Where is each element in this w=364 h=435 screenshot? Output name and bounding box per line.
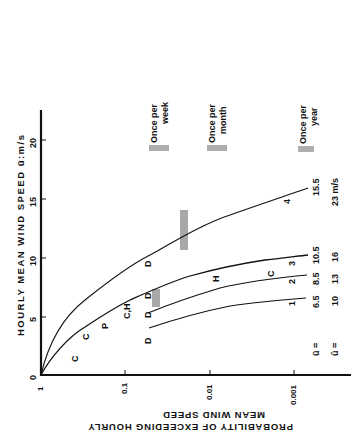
annotation-ch: C,H bbox=[122, 304, 132, 320]
u-gust-curve-4: 23 m/s bbox=[330, 178, 340, 206]
hatch-marker-year bbox=[299, 146, 313, 152]
hatch-marker-week bbox=[150, 145, 168, 151]
annotation-c-right: C bbox=[266, 271, 276, 278]
shaded-band-lower bbox=[152, 289, 160, 307]
u-gust-curve-2: 13 bbox=[330, 274, 340, 284]
annotation-c1: C bbox=[70, 356, 80, 363]
label-once-per-month-2: month bbox=[218, 107, 228, 135]
curve-2 bbox=[148, 275, 307, 313]
x-tick-1: 1 bbox=[36, 387, 45, 391]
y-tick-10: 10 bbox=[28, 256, 38, 266]
label-once-per-year-2: year bbox=[309, 107, 319, 126]
x-tick-0.1: 0.1 bbox=[120, 383, 129, 394]
x-axis-title-line1: PROBABILITY OF EXCEEDING HOURLY bbox=[88, 422, 293, 433]
annotation-h: H bbox=[211, 276, 221, 283]
u-gust-row-label: û = bbox=[330, 343, 340, 356]
curve-label-3: 3 bbox=[287, 261, 297, 266]
curve-1 bbox=[149, 298, 306, 328]
u-mean-row-label: ū = bbox=[311, 343, 321, 356]
y-tick-0: 0 bbox=[28, 375, 38, 380]
u-gust-curve-1: 10 bbox=[330, 296, 340, 306]
label-once-per-year-1: Once per bbox=[298, 105, 308, 144]
annotation-d-bottom: D bbox=[143, 338, 153, 345]
u-mean-curve-3: 10.5 bbox=[311, 246, 321, 264]
annotation-d-low: D bbox=[143, 312, 153, 319]
annotation-c2: C bbox=[81, 334, 91, 341]
y-tick-15: 15 bbox=[28, 197, 38, 207]
u-mean-curve-1: 6.5 bbox=[311, 295, 321, 308]
x-axis-title-line2: MEAN WIND SPEED bbox=[162, 410, 265, 421]
u-mean-curve-4: 15.5 bbox=[311, 178, 321, 196]
shaded-band-upper bbox=[180, 210, 188, 250]
y-tick-20: 20 bbox=[28, 138, 38, 148]
x-tick-0.01: 0.01 bbox=[205, 384, 214, 400]
chart-plot-area bbox=[0, 0, 364, 435]
curve-label-2: 2 bbox=[287, 279, 297, 284]
hatch-marker-month bbox=[208, 145, 226, 151]
y-axis-title: HOURLY MEAN WIND SPEED ū:m/s bbox=[15, 134, 26, 336]
label-once-per-week-2: week bbox=[160, 102, 170, 124]
x-tick-0.001: 0.001 bbox=[289, 385, 298, 405]
label-once-per-month-1: Once per bbox=[207, 104, 217, 143]
u-gust-curve-3: 16 bbox=[330, 252, 340, 262]
wind-speed-probability-chart: HOURLY MEAN WIND SPEED ū:m/s 0 5 10 15 2… bbox=[0, 0, 364, 435]
annotation-p: P bbox=[100, 323, 110, 329]
annotation-d-top: D bbox=[143, 261, 153, 268]
curve-label-1: 1 bbox=[287, 301, 297, 306]
u-mean-curve-2: 8.5 bbox=[311, 272, 321, 285]
label-once-per-week-1: Once per bbox=[149, 104, 159, 143]
curve-label-4: 4 bbox=[282, 199, 292, 204]
annotation-d-mid: D bbox=[143, 293, 153, 300]
y-tick-5: 5 bbox=[28, 317, 38, 322]
